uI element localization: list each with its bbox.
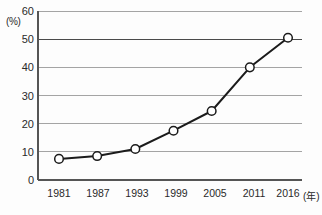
x-tick-1987: 1987	[86, 187, 109, 199]
data-point-1993	[131, 145, 140, 154]
data-point-1987	[93, 152, 102, 161]
x-tick-1999: 1999	[164, 187, 187, 199]
data-point-1999	[169, 126, 178, 135]
plot-area	[0, 0, 322, 215]
x-tick-1981: 1981	[47, 187, 70, 199]
x-tick-2005: 2005	[203, 187, 226, 199]
data-series-line	[59, 38, 288, 159]
data-point-2005	[207, 107, 216, 116]
x-tick-1993: 1993	[125, 187, 148, 199]
x-axis-unit-label: (年)	[303, 188, 320, 203]
x-tick-2011: 2011	[243, 187, 266, 199]
data-point-1981	[55, 155, 64, 164]
data-point-2016	[284, 33, 293, 42]
data-point-markers	[55, 33, 293, 163]
data-point-2011	[246, 63, 255, 72]
line-chart: (%) 60 50 40 30 20 10 0	[0, 0, 322, 215]
x-tick-2016: 2016	[276, 187, 299, 199]
